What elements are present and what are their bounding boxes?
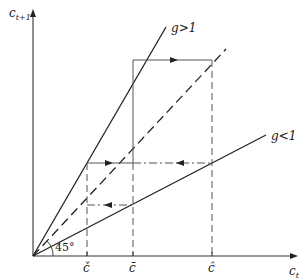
arrow-left-icon (104, 202, 112, 208)
x-axis-label: ct (289, 264, 300, 280)
tick-label-c-check: č (83, 261, 90, 275)
angle-label: 45° (55, 241, 75, 254)
line-45-degree (33, 49, 226, 256)
y-axis-arrow-icon (30, 9, 36, 17)
tick-label-c-hat: ĉ (208, 261, 215, 275)
phase-diagram: ct+1 ct g>1 g<1 45° č c̄ ĉ (0, 0, 307, 280)
trajectory-g-greater-1 (133, 57, 212, 256)
axes (30, 9, 298, 259)
x-axis-arrow-icon (290, 253, 298, 259)
arrow-right-icon (170, 57, 178, 63)
arrow-left-icon (176, 160, 184, 166)
label-g-less-1: g<1 (271, 129, 296, 143)
y-axis-label: ct+1 (9, 6, 31, 22)
arrow-right-icon (105, 160, 113, 166)
trajectory-middle (87, 160, 212, 256)
label-g-greater-1: g>1 (171, 21, 196, 35)
tick-label-c-bar: c̄ (129, 261, 136, 275)
